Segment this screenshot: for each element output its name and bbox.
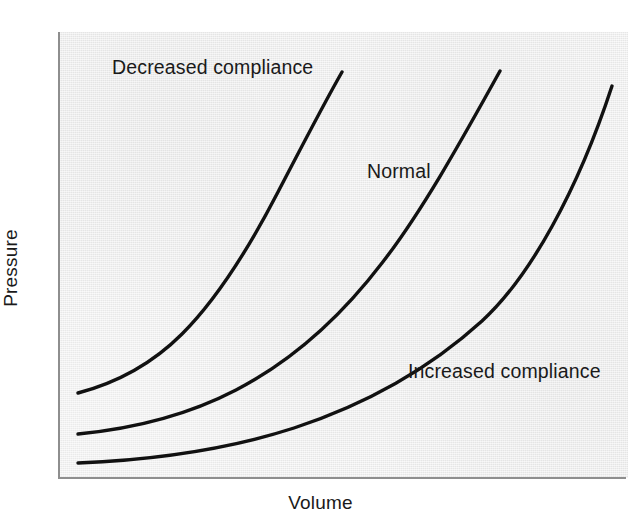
y-axis-line [58, 32, 60, 479]
plot-panel [58, 32, 628, 478]
x-axis-label: Volume [0, 492, 641, 514]
curve-label-increased-compliance: Increased compliance [408, 360, 601, 383]
x-axis-line [58, 477, 626, 479]
curve-label-decreased-compliance: Decreased compliance [112, 56, 313, 79]
compliance-figure: Decreased compliance Normal Increased co… [0, 0, 641, 530]
curve-label-normal: Normal [367, 160, 431, 183]
y-axis-label: Pressure [0, 188, 22, 348]
